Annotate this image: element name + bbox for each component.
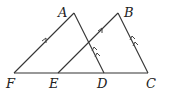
- label-f: F: [5, 76, 16, 91]
- label-a: A: [57, 5, 67, 20]
- geometry-diagram: A B F E D C: [0, 0, 169, 94]
- label-b: B: [123, 5, 134, 20]
- segment-eb: [58, 13, 118, 73]
- label-d: D: [96, 76, 108, 91]
- parallel-mark-bc-icon: [130, 36, 138, 46]
- segment-fa: [14, 13, 74, 73]
- segment-bc: [118, 13, 148, 73]
- label-c: C: [146, 76, 156, 91]
- label-e: E: [48, 76, 59, 91]
- segment-ad: [74, 13, 104, 73]
